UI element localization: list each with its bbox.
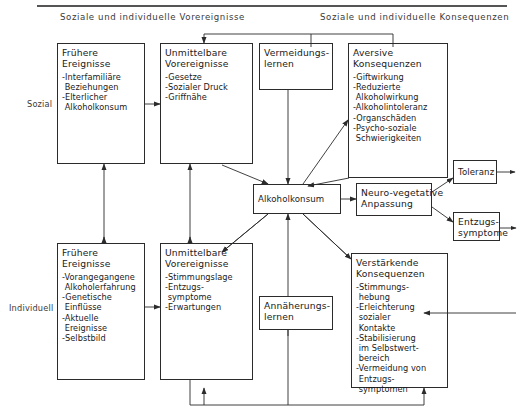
box-title: Annäherungs- lernen [264, 300, 328, 323]
box-title: Alkoholkonsum [258, 194, 324, 205]
box-title: Entzugs- symptome [458, 216, 495, 239]
list-item: Entzugs- [356, 374, 443, 384]
box-avoidance-learning[interactable]: Vermeidungs- lernen [259, 43, 333, 90]
box-approach-learning[interactable]: Annäherungs- lernen [259, 296, 333, 330]
list-item: -Psycho-soziale [353, 123, 443, 133]
list-item: -Stabilisierung [356, 333, 443, 343]
list-item: Alkoholerfahrung [62, 282, 140, 292]
list-item: -Selbstbild [62, 333, 140, 343]
box-title: Unmittelbare Vorereignisse [165, 247, 248, 270]
list-item: bereich [356, 353, 443, 363]
list-item: -Alkoholintoleranz [353, 102, 443, 112]
list-item: Alkoholkonsum [62, 102, 140, 112]
list-item: Schwierigkeiten [353, 133, 443, 143]
box-title: Neuro-vegetative Anpassung [361, 187, 427, 210]
box-social-prior-events[interactable]: Frühere Ereignisse -Interfamiliäre Bezie… [57, 43, 145, 164]
box-title: Frühere Ereignisse [62, 247, 140, 270]
list-item: -Vorangegangene [62, 272, 140, 282]
list-item: -Reduzierte [353, 82, 443, 92]
diagram-canvas: Soziale und individuelle Vorereignisse S… [0, 0, 522, 418]
box-item-list: -Interfamiliäre Beziehungen -Elterlicher… [62, 72, 140, 113]
list-item: -Erleichterung [356, 302, 443, 312]
box-item-list: -Stimmungs- hebung -Erleichterung sozial… [356, 282, 443, 394]
list-item: -Gesetze [165, 72, 248, 82]
list-item: -Vermeidung von [356, 363, 443, 373]
list-item: sozialer [356, 312, 443, 322]
box-item-list: -Giftwirkung -Reduzierte Alkoholwirkung … [353, 72, 443, 143]
list-item: -Interfamiliäre [62, 72, 140, 82]
list-item: -Erwartungen [165, 302, 248, 312]
list-item: Beziehungen [62, 82, 140, 92]
list-item: -Elterlicher [62, 92, 140, 102]
list-item: -Organschäden [353, 113, 443, 123]
list-item: im Selbstwert- [356, 343, 443, 353]
list-item: -Stimmungslage [165, 272, 248, 282]
list-item: Alkoholwirkung [353, 92, 443, 102]
list-item: Einflüsse [62, 302, 140, 312]
list-item: Ereignisse [62, 323, 140, 333]
list-item: symptomen [356, 384, 443, 394]
box-alcohol-consumption[interactable]: Alkoholkonsum [253, 184, 341, 214]
list-item: -Entzugs- [165, 282, 248, 292]
box-title: Vermeidungs- lernen [264, 47, 328, 70]
box-reinforcing-consequences[interactable]: Verstärkende Konsequenzen -Stimmungs- he… [351, 253, 448, 388]
list-item: hebung [356, 292, 443, 302]
list-item: -Griffnähe [165, 92, 248, 102]
box-item-list: -Stimmungslage -Entzugs- symptome -Erwar… [165, 272, 248, 313]
list-item: -Stimmungs- [356, 282, 443, 292]
box-withdrawal-symptoms[interactable]: Entzugs- symptome [453, 212, 500, 241]
box-title: Toleranz [458, 167, 494, 178]
box-title: Verstärkende Konsequenzen [356, 257, 443, 280]
box-item-list: -Vorangegangene Alkoholerfahrung -Geneti… [62, 272, 140, 343]
list-item: symptome [165, 292, 248, 302]
box-aversive-consequences[interactable]: Aversive Konsequenzen -Giftwirkung -Redu… [348, 43, 448, 178]
list-item: -Genetische [62, 292, 140, 302]
list-item: -Giftwirkung [353, 72, 443, 82]
box-neuro-vegetative-adaptation[interactable]: Neuro-vegetative Anpassung [356, 183, 432, 216]
box-title: Unmittelbare Vorereignisse [165, 47, 248, 70]
list-item: Kontakte [356, 323, 443, 333]
box-individual-immediate-events[interactable]: Unmittelbare Vorereignisse -Stimmungslag… [160, 243, 253, 380]
box-social-immediate-events[interactable]: Unmittelbare Vorereignisse -Gesetze -Soz… [160, 43, 253, 164]
list-item: -Aktuelle [62, 313, 140, 323]
box-title: Aversive Konsequenzen [353, 47, 443, 70]
list-item: -Sozialer Druck [165, 82, 248, 92]
box-item-list: -Gesetze -Sozialer Druck -Griffnähe [165, 72, 248, 103]
box-title: Frühere Ereignisse [62, 47, 140, 70]
box-tolerance[interactable]: Toleranz [453, 160, 497, 184]
box-individual-prior-events[interactable]: Frühere Ereignisse -Vorangegangene Alkoh… [57, 243, 145, 380]
